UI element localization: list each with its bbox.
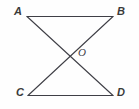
- point-label-o: O: [78, 47, 86, 58]
- vertex-label-c: C: [16, 87, 24, 98]
- vertex-label-d: D: [117, 87, 125, 98]
- vertex-label-b: B: [117, 6, 125, 17]
- geometry-figure: A B C D O: [0, 0, 139, 109]
- vertex-label-a: A: [14, 6, 22, 17]
